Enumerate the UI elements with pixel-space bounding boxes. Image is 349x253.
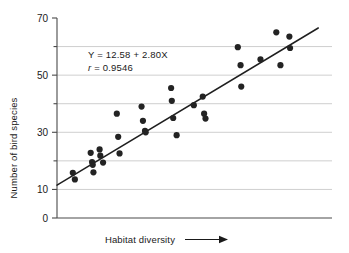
data-point (200, 93, 206, 99)
y-axis-title: Number of bird species (8, 97, 19, 198)
data-point (143, 129, 149, 135)
r-value: = 0.9546 (91, 62, 133, 73)
data-point (169, 98, 175, 104)
data-point (235, 44, 241, 50)
x-axis-title: Habitat diversity (105, 234, 175, 245)
correlation-coefficient-label: r = 0.9546 (88, 62, 133, 73)
data-point (277, 62, 283, 68)
y-tick-label-70: 70 (37, 13, 49, 24)
regression-equation-label: Y = 12.58 + 2.80X (88, 49, 168, 60)
data-point (114, 111, 120, 117)
data-point (202, 115, 208, 121)
data-point (287, 45, 293, 51)
data-point (100, 159, 106, 165)
data-point (115, 134, 121, 140)
scatter-plot-figure: 010305070 Y = 12.58 + 2.80X r = 0.9546 N… (0, 0, 349, 253)
data-point (237, 62, 243, 68)
data-point (238, 83, 244, 89)
data-point (90, 162, 96, 168)
data-point (257, 56, 263, 62)
data-point (138, 103, 144, 109)
y-tick-label-30: 30 (37, 127, 49, 138)
data-point (97, 146, 103, 152)
data-point (191, 102, 197, 108)
y-tick-label-50: 50 (37, 70, 49, 81)
data-point (140, 118, 146, 124)
data-point (273, 29, 279, 35)
data-point (88, 150, 94, 156)
plot-canvas: 010305070 Y = 12.58 + 2.80X r = 0.9546 N… (0, 0, 349, 253)
data-point (72, 176, 78, 182)
data-point (170, 115, 176, 121)
data-point (168, 85, 174, 91)
data-point (116, 150, 122, 156)
data-point (97, 153, 103, 159)
data-point (286, 33, 292, 39)
data-point (70, 170, 76, 176)
y-tick-label-0: 0 (42, 213, 48, 224)
data-point (90, 169, 96, 175)
data-point (174, 132, 180, 138)
y-tick-label-10: 10 (37, 184, 49, 195)
figure-background (0, 0, 349, 253)
